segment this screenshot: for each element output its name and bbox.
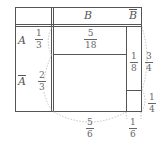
bottom-label-1-6: 1 6 <box>129 118 137 139</box>
bottom-label-1-6-num: 1 <box>129 118 137 128</box>
bottom-label-5-6: 5 6 <box>86 118 94 139</box>
row-label-a: A <box>18 35 26 46</box>
prob-a-num: 1 <box>35 29 43 39</box>
right-label-1-4-num: 1 <box>148 93 156 103</box>
right-label-3-4-den: 4 <box>145 63 153 73</box>
cell-notb-upper-num: 1 <box>130 52 138 62</box>
prob-a-den: 3 <box>35 40 43 50</box>
right-label-1-4-den: 4 <box>148 104 156 114</box>
right-label-1-4: 1 4 <box>148 93 156 114</box>
prob-a: 1 3 <box>35 29 43 50</box>
right-label-3-4: 3 4 <box>145 52 153 73</box>
prob-not-a-num: 2 <box>38 71 46 81</box>
bottom-label-5-6-num: 5 <box>86 118 94 128</box>
bottom-label-1-6-den: 6 <box>129 129 137 139</box>
cell-notb-upper-den: 8 <box>130 63 138 73</box>
cell-a-and-b-num: 5 <box>87 29 95 39</box>
prob-not-a: 2 3 <box>38 71 46 92</box>
header-col-not-b: B <box>129 9 137 21</box>
bottom-label-5-6-den: 6 <box>86 129 94 139</box>
cell-a-and-b-den: 18 <box>84 40 97 50</box>
dashed-brace-lines <box>0 0 162 146</box>
row-label-not-a: A <box>18 75 26 87</box>
prob-not-a-den: 3 <box>38 82 46 92</box>
right-label-3-4-num: 3 <box>145 52 153 62</box>
header-col-b: B <box>84 10 92 21</box>
cell-a-and-b: 5 18 <box>84 29 97 50</box>
cell-notb-upper: 1 8 <box>130 52 138 73</box>
